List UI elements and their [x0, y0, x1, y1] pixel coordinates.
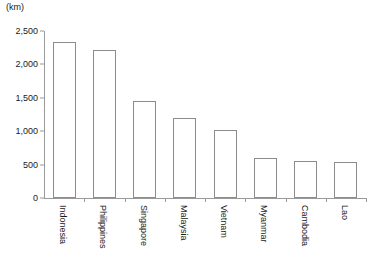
x-axis-category-label: Philippines [98, 205, 108, 249]
x-axis-tick-mark [165, 198, 166, 202]
y-axis-tick-mark [40, 198, 44, 199]
x-axis-category-label: Singapore [139, 205, 149, 246]
x-axis-tick-mark [286, 198, 287, 202]
plot-area: 05001,0001,5002,0002,500 [44, 31, 366, 198]
y-axis-unit-label: (km) [6, 2, 24, 13]
y-axis-tick-mark [40, 131, 44, 132]
x-axis-tick-mark [245, 198, 246, 202]
x-axis-category-label: Malaysia [179, 205, 189, 241]
bar [133, 101, 156, 198]
bar-chart: (km) 05001,0001,5002,0002,500 IndonesiaP… [0, 0, 373, 260]
bar [254, 158, 277, 198]
y-axis-tick-mark [40, 97, 44, 98]
x-axis-category-label: Indonesia [58, 205, 68, 244]
x-axis-category-label: Lao [340, 205, 350, 220]
x-axis-category-label: Myanmar [259, 205, 269, 243]
x-axis-tick-mark [366, 198, 367, 202]
x-axis-tick-mark [125, 198, 126, 202]
x-axis-category-label: Vietnam [219, 205, 229, 238]
bar [93, 50, 116, 198]
bar [53, 42, 76, 198]
y-axis-tick-mark [40, 164, 44, 165]
x-axis-tick-mark [205, 198, 206, 202]
bar [173, 118, 196, 198]
x-axis-category-label: Cambodia [300, 205, 310, 246]
y-axis-tick-mark [40, 64, 44, 65]
bar [214, 130, 237, 198]
x-axis-tick-mark [326, 198, 327, 202]
bar [294, 161, 317, 198]
bar [334, 162, 357, 198]
y-axis-tick-mark [40, 31, 44, 32]
x-axis-tick-mark [84, 198, 85, 202]
